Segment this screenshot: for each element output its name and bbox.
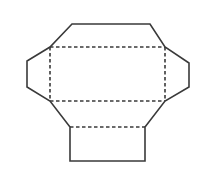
fold-lines xyxy=(50,47,165,127)
box-net-diagram xyxy=(0,0,200,170)
